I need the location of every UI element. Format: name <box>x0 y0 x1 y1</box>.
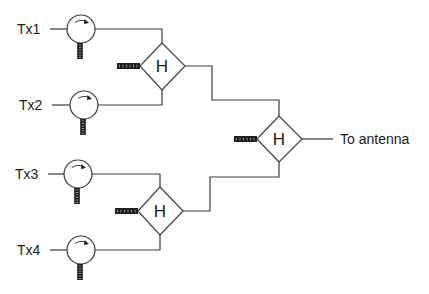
hybrid2-to-hybrid3-line <box>183 162 279 211</box>
hybrid-1-label: H <box>152 58 172 75</box>
tx2-label: Tx2 <box>19 98 42 112</box>
tx3-label: Tx3 <box>15 167 38 181</box>
hybrid-3-load-icon <box>234 136 257 142</box>
antenna-output-label: To antenna <box>340 132 409 146</box>
circulator-3-load-icon <box>74 188 80 204</box>
hybrid-3-label: H <box>269 131 289 148</box>
tx4-label: Tx4 <box>17 243 40 257</box>
circulator-4 <box>67 236 95 264</box>
circulator-2-load-icon <box>80 119 86 135</box>
hybrid-2-load-icon <box>115 208 138 214</box>
tx4-to-hybrid2-line <box>95 235 160 250</box>
circulator-2 <box>70 91 98 119</box>
circulator-1 <box>67 15 95 43</box>
circulator-1-load-icon <box>77 43 83 59</box>
hybrid1-to-hybrid3-line <box>185 66 279 116</box>
hybrid-2-label: H <box>150 203 170 220</box>
circulator-4-load-icon <box>77 264 83 280</box>
tx1-label: Tx1 <box>17 22 40 36</box>
combiner-diagram <box>0 0 429 294</box>
hybrid-1-load-icon <box>117 63 140 69</box>
circulator-3 <box>64 160 92 188</box>
tx2-to-hybrid1-line <box>98 90 162 105</box>
tx3-to-hybrid2-line <box>92 174 160 187</box>
tx1-to-hybrid1-line <box>95 29 162 43</box>
